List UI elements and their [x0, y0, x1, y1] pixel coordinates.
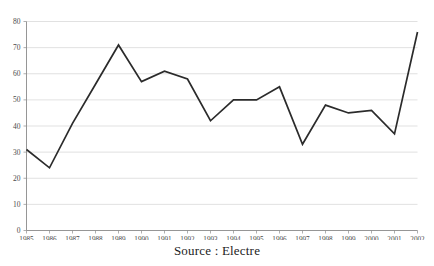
line-chart-svg: 01020304050607080 1985198619871988198919… [0, 0, 434, 240]
x-tick-label: 1996 [272, 236, 287, 240]
x-tick-label: 1990 [134, 236, 149, 240]
y-tick-label: 20 [13, 174, 21, 183]
x-tick-label: 1992 [180, 236, 195, 240]
x-tick-label: 2000 [364, 236, 379, 240]
x-tick-label: 1998 [318, 236, 333, 240]
y-tick-label: 0 [17, 226, 21, 235]
x-tick-label: 1999 [341, 236, 356, 240]
chart-figure: 01020304050607080 1985198619871988198919… [0, 0, 434, 266]
x-tick-label: 1991 [157, 236, 172, 240]
y-tick-label: 70 [13, 43, 21, 52]
x-tick-label: 1988 [88, 236, 103, 240]
gridlines [27, 22, 418, 205]
y-tick-label: 30 [13, 148, 21, 157]
x-tick-label: 1994 [226, 236, 241, 240]
x-tick-label: 2001 [387, 236, 402, 240]
y-tick-label: 80 [13, 17, 21, 26]
y-tick-label: 60 [13, 69, 21, 78]
x-tick-label: 1986 [42, 236, 57, 240]
x-tick-label: 1987 [65, 236, 80, 240]
x-tick-label: 1995 [249, 236, 264, 240]
x-tick-label: 1989 [111, 236, 126, 240]
x-tick-label: 1985 [19, 236, 34, 240]
x-tick-label: 1997 [295, 236, 310, 240]
x-tick-label: 1993 [203, 236, 218, 240]
y-axis-labels: 01020304050607080 [13, 17, 21, 235]
source-caption: Source : Electre [0, 243, 434, 259]
x-tick-label: 2002 [410, 236, 425, 240]
x-axis-labels: 1985198619871988198919901991199219931994… [19, 236, 425, 240]
y-tick-label: 10 [13, 200, 21, 209]
plot-area: 01020304050607080 1985198619871988198919… [0, 0, 434, 240]
y-tick-label: 50 [13, 95, 21, 104]
y-tick-label: 40 [13, 122, 21, 131]
